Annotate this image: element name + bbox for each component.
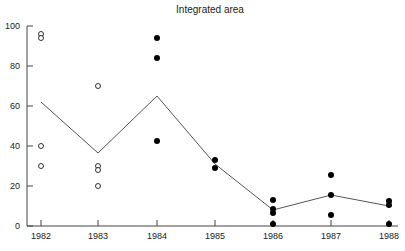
filled-circle-marker [386, 202, 392, 208]
x-tick-label: 1988 [379, 231, 399, 241]
chart-title: Integrated area [176, 4, 244, 15]
filled-circle-marker [328, 172, 334, 178]
open-circle-marker [39, 164, 44, 169]
open-circle-marker [96, 184, 101, 189]
x-tick-label: 1986 [263, 231, 283, 241]
open-circle-marker [96, 168, 101, 173]
y-tick-label: 80 [10, 61, 20, 71]
filled-circle-marker [270, 197, 276, 203]
y-tick-label: 0 [15, 221, 20, 231]
y-tick-label: 20 [10, 181, 20, 191]
open-circle-marker [96, 84, 101, 89]
open-circle-marker [39, 144, 44, 149]
axes: 0204060801001982198319841985198619871988 [5, 21, 399, 241]
chart: Integrated area 020406080100198219831984… [0, 0, 405, 251]
mean-line [41, 96, 389, 210]
filled-circle-marker [270, 221, 276, 227]
trend-line [41, 96, 389, 210]
x-tick-label: 1987 [321, 231, 341, 241]
filled-circle-marker [212, 157, 218, 163]
x-tick-label: 1982 [31, 231, 51, 241]
x-tick-label: 1984 [147, 231, 167, 241]
filled-circle-marker [154, 35, 160, 41]
data-points [39, 32, 393, 228]
filled-circle-marker [270, 210, 276, 216]
open-circle-marker [39, 36, 44, 41]
x-tick-label: 1983 [88, 231, 108, 241]
y-tick-label: 40 [10, 141, 20, 151]
filled-circle-marker [212, 165, 218, 171]
filled-circle-marker [328, 212, 334, 218]
filled-circle-marker [386, 221, 392, 227]
filled-circle-marker [328, 192, 334, 198]
filled-circle-marker [154, 138, 160, 144]
filled-circle-marker [154, 55, 160, 61]
y-tick-label: 100 [5, 21, 20, 31]
y-tick-label: 60 [10, 101, 20, 111]
x-tick-label: 1985 [205, 231, 225, 241]
